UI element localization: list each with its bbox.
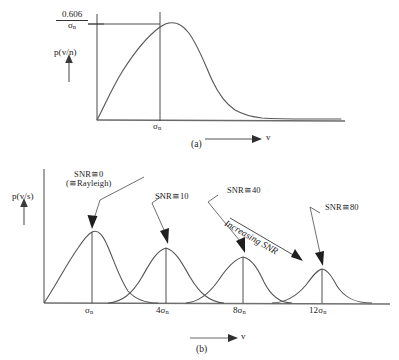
panel-a-peak-numerator: 0.606	[56, 10, 88, 19]
figure-container: 0.606 σn p(v/n) σn v (a)	[0, 0, 399, 360]
panel-b-leader-snr10	[152, 196, 169, 244]
panel-b-label-snr40: SNR≅40	[227, 186, 261, 195]
panel-a-rayleigh-curve	[97, 23, 341, 120]
panel-a-y-arrow	[65, 54, 73, 82]
panel-a-peak-value: 0.606 σn	[56, 10, 88, 31]
panel-b-x-axis-label: v	[241, 332, 246, 341]
panel-a-x-axis	[97, 120, 345, 121]
panel-a-x-arrow	[205, 135, 262, 143]
panel-a-peak-denominator: σn	[56, 21, 88, 31]
panel-a-x-axis-label: v	[266, 133, 271, 142]
panel-b-x-arrow	[190, 334, 238, 342]
panel-a-y-axis-label: p(v/n)	[54, 48, 77, 57]
panel-b-x-axis	[44, 303, 390, 304]
panel-b-curve-snr40	[186, 257, 292, 303]
panel-b-x-tick-1: 4σn	[156, 306, 169, 316]
panel-b-y-arrow	[20, 198, 28, 225]
panel-b-label-snr10: SNR≅10	[155, 192, 189, 201]
panel-b-label-snr80: SNR≅80	[325, 203, 359, 212]
panel-b-label-snr0-line2: (≅Rayleigh)	[66, 178, 111, 188]
panel-a-x-tick-sigma: σn	[153, 122, 161, 132]
panel-b-label-snr0: SNR≅0 (≅Rayleigh)	[66, 170, 111, 188]
panel-b-x-tick-3: 12σn	[309, 306, 327, 316]
panel-b-x-tick-2: 8σn	[233, 306, 246, 316]
panel-b-caption: (b)	[196, 345, 207, 355]
panel-b-leader-snr80	[310, 207, 324, 266]
panel-b-x-tick-0: σn	[85, 306, 93, 316]
panel-b-y-axis-label: p(v/s)	[12, 192, 34, 201]
panel-a-caption: (a)	[191, 140, 202, 150]
panel-b-plot	[0, 155, 399, 360]
panel-b-curve-snr0	[44, 231, 158, 303]
